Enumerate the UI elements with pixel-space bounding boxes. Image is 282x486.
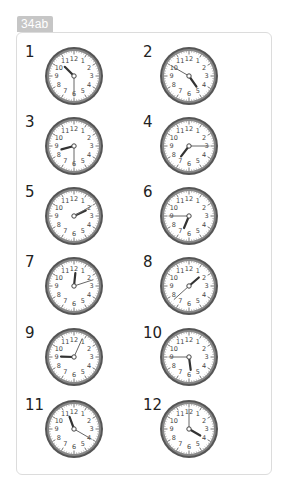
svg-text:2: 2 (202, 204, 206, 212)
svg-text:12: 12 (185, 125, 193, 133)
clock-number: 11 (25, 396, 44, 414)
svg-text:7: 7 (178, 297, 182, 305)
svg-text:9: 9 (54, 212, 58, 220)
svg-text:4: 4 (202, 434, 206, 442)
clock-face-icon: 121234567891011 (158, 45, 220, 107)
page-badge: 34ab (17, 16, 53, 32)
svg-text:4: 4 (202, 291, 206, 299)
svg-text:3: 3 (89, 142, 93, 150)
svg-text:1: 1 (196, 127, 200, 135)
svg-text:7: 7 (63, 87, 67, 95)
svg-text:8: 8 (172, 362, 176, 370)
clock-item-5: 5121234567891011 (25, 183, 145, 253)
svg-text:9: 9 (54, 282, 58, 290)
clock-face-icon: 121234567891011 (43, 115, 105, 177)
clock-face-icon: 121234567891011 (158, 398, 220, 460)
svg-text:9: 9 (169, 72, 173, 80)
clock-item-1: 1121234567891011 (25, 43, 145, 113)
svg-text:1: 1 (196, 267, 200, 275)
svg-text:3: 3 (89, 72, 93, 80)
clock-item-6: 6121234567891011 (143, 183, 263, 253)
clock-number: 3 (25, 113, 35, 131)
svg-text:12: 12 (70, 265, 78, 273)
svg-text:5: 5 (81, 440, 85, 448)
svg-text:4: 4 (87, 291, 91, 299)
clock-item-3: 3121234567891011 (25, 113, 145, 183)
svg-text:1: 1 (81, 338, 85, 346)
svg-text:11: 11 (176, 410, 184, 418)
clock-number: 8 (143, 253, 153, 271)
svg-text:3: 3 (204, 72, 208, 80)
svg-text:12: 12 (185, 336, 193, 344)
clock-face-icon: 121234567891011 (158, 115, 220, 177)
svg-text:6: 6 (187, 443, 191, 451)
svg-text:2: 2 (202, 134, 206, 142)
clock-item-10: 10121234567891011 (143, 324, 263, 394)
svg-text:12: 12 (185, 55, 193, 63)
clock-number: 9 (25, 324, 35, 342)
clock-face-icon: 121234567891011 (43, 326, 105, 388)
svg-text:1: 1 (196, 338, 200, 346)
svg-text:1: 1 (196, 197, 200, 205)
svg-text:12: 12 (185, 195, 193, 203)
clock-face-icon: 121234567891011 (158, 185, 220, 247)
clock-number: 6 (143, 183, 153, 201)
svg-text:1: 1 (81, 197, 85, 205)
clock-item-4: 4121234567891011 (143, 113, 263, 183)
svg-text:3: 3 (89, 353, 93, 361)
svg-text:2: 2 (87, 134, 91, 142)
clock-item-12: 12121234567891011 (143, 396, 263, 466)
svg-text:5: 5 (196, 87, 200, 95)
clock-face-icon: 121234567891011 (158, 255, 220, 317)
svg-text:1: 1 (196, 410, 200, 418)
clock-number: 4 (143, 113, 153, 131)
svg-text:7: 7 (63, 157, 67, 165)
svg-text:8: 8 (172, 151, 176, 159)
svg-text:2: 2 (202, 345, 206, 353)
svg-text:11: 11 (176, 127, 184, 135)
svg-text:11: 11 (176, 267, 184, 275)
svg-text:2: 2 (202, 64, 206, 72)
svg-text:5: 5 (81, 87, 85, 95)
svg-text:7: 7 (63, 297, 67, 305)
svg-text:4: 4 (202, 151, 206, 159)
svg-text:5: 5 (196, 440, 200, 448)
svg-text:1: 1 (196, 57, 200, 65)
svg-text:9: 9 (54, 142, 58, 150)
svg-text:12: 12 (70, 55, 78, 63)
svg-text:11: 11 (61, 127, 69, 135)
svg-text:1: 1 (81, 127, 85, 135)
svg-text:4: 4 (87, 221, 91, 229)
svg-text:3: 3 (204, 282, 208, 290)
svg-text:8: 8 (57, 81, 61, 89)
svg-text:7: 7 (63, 368, 67, 376)
svg-text:8: 8 (172, 434, 176, 442)
svg-text:3: 3 (204, 425, 208, 433)
svg-text:6: 6 (187, 230, 191, 238)
svg-text:11: 11 (61, 338, 69, 346)
svg-text:11: 11 (176, 57, 184, 65)
svg-text:9: 9 (169, 425, 173, 433)
svg-text:6: 6 (187, 160, 191, 168)
svg-text:8: 8 (172, 221, 176, 229)
svg-text:4: 4 (202, 362, 206, 370)
svg-text:8: 8 (57, 291, 61, 299)
svg-text:5: 5 (81, 297, 85, 305)
svg-text:7: 7 (63, 440, 67, 448)
svg-text:5: 5 (81, 157, 85, 165)
clock-number: 7 (25, 253, 35, 271)
svg-text:7: 7 (178, 157, 182, 165)
svg-text:6: 6 (72, 230, 76, 238)
svg-text:2: 2 (87, 345, 91, 353)
clock-face-icon: 121234567891011 (43, 45, 105, 107)
svg-text:3: 3 (204, 353, 208, 361)
svg-text:6: 6 (187, 371, 191, 379)
svg-text:7: 7 (63, 227, 67, 235)
svg-text:2: 2 (202, 274, 206, 282)
svg-text:1: 1 (81, 410, 85, 418)
svg-text:5: 5 (196, 297, 200, 305)
clock-face-icon: 121234567891011 (43, 185, 105, 247)
svg-text:4: 4 (87, 151, 91, 159)
svg-text:1: 1 (81, 57, 85, 65)
svg-text:5: 5 (196, 227, 200, 235)
